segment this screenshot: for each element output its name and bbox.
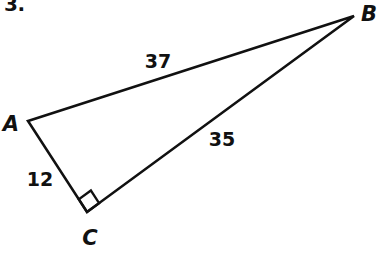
side-length-label-cb: 35 [209,130,235,149]
vertex-label-b: B [361,4,377,25]
geometry-figure: 3. A B C 37 35 12 [0,0,383,257]
triangle-drawing [0,0,383,257]
triangle-outline [28,16,354,212]
problem-number: 3. [4,0,25,14]
vertex-label-a: A [3,114,19,135]
side-length-label-ac: 12 [27,170,53,189]
vertex-label-c: C [82,228,97,249]
right-angle-marker-icon [79,191,99,213]
side-length-label-ab: 37 [145,52,171,71]
